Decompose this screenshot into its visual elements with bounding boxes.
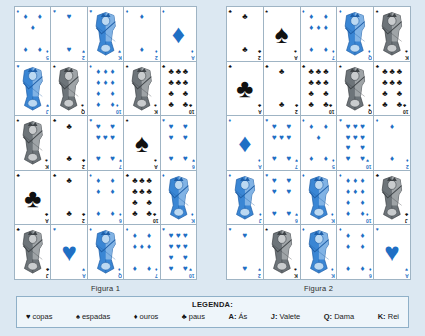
playing-card[interactable]: ♣ 10 ♣ ♣♣♣♣♣♣♣♣♣♣ [124,171,159,225]
card-rank: 2 [258,54,261,59]
card-pip: ♦ [95,67,102,78]
card-pip: ♣ [131,208,138,219]
playing-card[interactable]: ♥ 6 ♥ ♥♥♥♥♥♥ [264,171,300,225]
playing-card[interactable]: ♣ J ♣ [374,171,410,225]
playing-card[interactable]: ♣ 10 ♣ ♣♣♣♣♣♣♣♣♣♣ [374,62,410,116]
playing-card[interactable]: ♠ Q ♠ [337,62,373,116]
card-suit-icon: ♦ [89,64,92,69]
playing-card[interactable]: ♣ 10 ♣ ♣♣♣♣♣♣♣♣♣♣ [301,62,337,116]
playing-card[interactable]: ♣ 10 ♣ ♣♣♣♣♣♣♣♣♣♣ [161,62,196,116]
playing-card[interactable]: ♠ Q ♠ [51,62,86,116]
card-pip: ♥ [109,132,116,143]
card-index-bottom-right: 10 ♣ [403,103,409,114]
playing-card[interactable]: ♦ A ♦ ♦ [161,7,196,61]
card-rank: 7 [295,163,298,168]
card-pip: ♦ [315,132,322,143]
card-pips: ♣♣♣♣♣♣♣♣♣♣ [131,176,152,220]
card-pips: ♦♦♦♦♦♦♦ [308,12,330,56]
playing-card[interactable]: ♠ A ♠ ♠ [264,7,300,61]
card-pips: ♦♦♦♦♦♦ [344,230,366,274]
playing-card[interactable]: ♥ J ♥ [15,62,50,116]
playing-card[interactable]: ♠ K ♠ [15,116,50,170]
playing-card[interactable]: ♠ A ♠ ♠ [124,116,159,170]
card-pips: ♣♣ [271,67,293,111]
playing-card[interactable]: ♣ 2 ♣ ♣♣ [227,7,263,61]
playing-card[interactable]: ♣ A ♣ ♣ [227,62,263,116]
card-rank: 10 [189,109,195,114]
card-ace-pip: ♠ [264,7,300,61]
card-court-artwork [378,11,406,57]
card-pip: ♦ [95,77,102,88]
playing-card[interactable]: ♦ 7 ♦ ♦♦♦♦♦♦♦ [124,225,159,279]
playing-card[interactable]: ♣ 2 ♣ ♣♣ [264,62,300,116]
card-pip: ♣ [388,67,395,78]
card-pip: ♥ [359,143,366,154]
card-suit-icon: ♥ [295,158,298,163]
legend-label: Ás [239,312,248,321]
playing-card[interactable]: ♦ K ♦ [301,171,337,225]
card-pip: ♦ [308,23,315,34]
card-pip: ♥ [175,241,182,252]
playing-card[interactable]: ♥ 2 ♥ ♥♥ [51,7,86,61]
playing-card[interactable]: ♥ 7 ♥ ♥♥♥♥♥♥♥ [264,116,300,170]
card-suit-icon: ♣ [53,118,56,123]
playing-card[interactable]: ♦ 10 ♦ ♦♦♦♦♦♦♦♦♦♦ [337,171,373,225]
playing-card[interactable]: ♦ Q ♦ [88,225,123,279]
playing-card[interactable]: ♦ 5 ♦ ♦♦♦♦♦ [301,116,337,170]
card-index-top-left: ♥ [162,227,165,233]
playing-card[interactable]: ♦ 6 ♦ ♦♦♦♦♦♦ [337,225,373,279]
playing-card[interactable]: ♥ K ♥ [88,7,123,61]
playing-card[interactable]: ♣ J ♣ [15,225,50,279]
card-pip: ♣ [131,198,138,209]
card-pip: ♥ [168,252,175,263]
card-pip: ♣ [396,77,403,88]
card-index-top-left: ♣ [126,172,129,178]
playing-card[interactable]: ♦ 10 ♦ ♦♦♦♦♦♦♦♦♦♦ [88,62,123,116]
card-index-top-left: ♣ [53,172,56,178]
card-pip: ♦ [22,12,29,23]
card-pips: ♦♦♦♦♦♦♦ [131,230,152,274]
card-pip: ♣ [138,187,145,198]
playing-card[interactable]: ♠ K ♠ [264,225,300,279]
playing-card[interactable]: ♦ A ♦ ♦ [227,116,263,170]
playing-card[interactable]: ♣ 2 ♣ ♣♣ [51,116,86,170]
card-pip: ♥ [182,230,189,241]
playing-card[interactable]: ♥ 10 ♥ ♥♥♥♥♥♥♥♥♥♥ [161,225,196,279]
playing-card[interactable]: ♦ 7 ♦ ♦♦♦♦♦♦♦ [301,7,337,61]
card-rank: 10 [189,272,195,277]
legend-label: espadas [82,312,110,321]
playing-card[interactable]: ♥ A ♥ ♥ [374,225,410,279]
card-suit-icon: ♥ [119,158,122,163]
playing-card[interactable]: ♥ A ♥ ♥ [51,225,86,279]
card-pip: ♦ [359,198,366,209]
card-index-bottom-right: 6 ♦ [369,267,372,278]
card-pip: ♣ [381,67,388,78]
card-rank: 6 [369,272,372,277]
playing-card[interactable]: ♣ A ♣ ♣ [15,171,50,225]
card-index-bottom-right: 5 ♦ [332,158,335,169]
card-pip: ♦ [344,198,351,209]
playing-card[interactable]: ♦ 6 ♦ ♦♦♦♦♦♦ [88,171,123,225]
playing-card[interactable]: ♦ 2 ♦ ♦♦ [124,7,159,61]
playing-card[interactable]: ♥ 7 ♥ ♥♥♥♥♥♥♥ [88,116,123,170]
card-pips: ♣♣♣♣♣♣♣♣♣♣ [308,67,330,111]
card-pip: ♣ [145,176,152,187]
playing-card[interactable]: ♦ K ♦ [161,171,196,225]
playing-card[interactable]: ♥ 2 ♥ ♥♥ [227,225,263,279]
playing-card[interactable]: ♦ Q ♦ [337,7,373,61]
playing-card[interactable]: ♠ K ♠ [124,62,159,116]
playing-card[interactable]: ♥ 10 ♥ ♥♥♥♥♥♥♥♥♥♥ [337,116,373,170]
card-pip: ♥ [271,208,278,219]
card-suit-icon: ♦ [46,49,49,54]
playing-card[interactable]: ♥ 6 ♥ ♥♥♥♥♥♥ [161,116,196,170]
playing-card[interactable]: ♣ 2 ♣ ♣♣ [51,171,86,225]
card-pip: ♣ [131,176,138,187]
legend-label: paus [189,312,205,321]
card-ace-pip: ♠ [124,116,159,170]
card-index-bottom-right: 6 ♦ [119,212,122,223]
playing-card[interactable]: ♠ K ♠ [374,7,410,61]
playing-card[interactable]: ♦ K ♦ [301,225,337,279]
playing-card[interactable]: ♦ J ♦ [227,171,263,225]
playing-card[interactable]: ♦ 5 ♦ ♦♦♦♦♦ [15,7,50,61]
playing-card[interactable]: ♦ 2 ♦ ♦♦ [374,116,410,170]
